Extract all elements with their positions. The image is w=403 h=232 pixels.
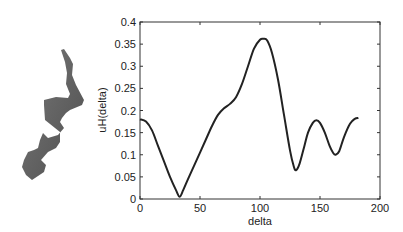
- plot-area: [140, 22, 380, 199]
- y-tick-label: 0.3: [121, 60, 136, 72]
- y-tick-label: 0.2: [121, 105, 136, 117]
- y-tick-label: 0.4: [121, 16, 136, 28]
- x-tick-label: 200: [371, 202, 389, 214]
- y-tick-label: 0: [130, 193, 136, 205]
- x-tick-label: 50: [194, 202, 206, 214]
- y-tick-label: 0.35: [115, 38, 136, 50]
- y-tick-label: 0.25: [115, 82, 136, 94]
- y-tick-label: 0.15: [115, 127, 136, 139]
- x-tick-label: 100: [251, 202, 269, 214]
- y-axis-label: uH(delta): [96, 87, 108, 132]
- line-chart: 050100150200 00.050.10.150.20.250.30.350…: [0, 0, 403, 232]
- x-tick-label: 150: [311, 202, 329, 214]
- y-tick-label: 0.1: [121, 149, 136, 161]
- x-axis-label: delta: [248, 215, 273, 227]
- x-tick-label: 0: [137, 202, 143, 214]
- y-tick-label: 0.05: [115, 171, 136, 183]
- series-line-uH: [140, 39, 358, 197]
